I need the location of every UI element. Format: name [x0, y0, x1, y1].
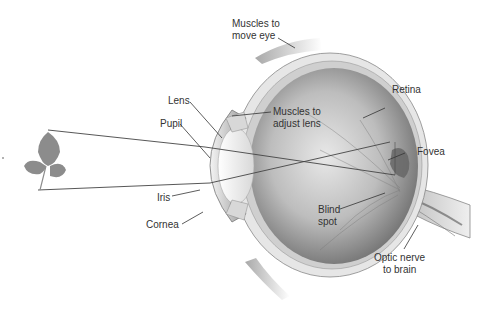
label-retina: Retina — [392, 84, 421, 96]
label-fovea: Fovea — [417, 146, 445, 158]
eye-diagram: Muscles to move eye Retina Lens Muscles … — [0, 0, 491, 312]
label-lens: Lens — [168, 95, 190, 107]
lower-eye-muscle — [245, 258, 290, 300]
label-blind-spot: Blind spot — [318, 204, 340, 228]
label-cornea: Cornea — [146, 219, 179, 231]
label-muscles-adjust-lens: Muscles to adjust lens — [273, 106, 321, 130]
lens — [218, 128, 254, 204]
label-iris: Iris — [157, 192, 170, 204]
label-pupil: Pupil — [160, 118, 182, 130]
label-optic-nerve: Optic nerve to brain — [374, 252, 425, 276]
label-muscles-move-eye: Muscles to move eye — [232, 18, 280, 42]
leaf-object — [24, 132, 66, 190]
